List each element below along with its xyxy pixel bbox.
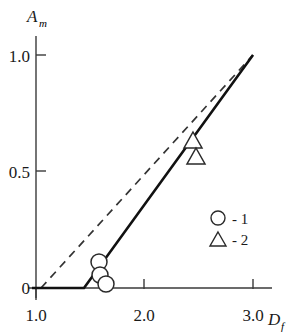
- y-tick-label-0.5: 0.5: [9, 163, 30, 182]
- y-tick-label-1.0: 1.0: [9, 47, 30, 66]
- data-point-circle: [98, 276, 114, 292]
- legend-label-2: - 2: [232, 232, 248, 248]
- y-axis-title-base: A: [26, 7, 38, 26]
- data-point-triangle: [187, 148, 205, 164]
- legend-triangle-icon: [210, 232, 226, 246]
- x-axis-title-base: D: [267, 310, 281, 329]
- scatter-plot: 1.0 0.5 0 1.0 2.0 3.0 A m D f: [0, 0, 297, 335]
- legend-circle-icon: [211, 211, 225, 225]
- y-tick-label-0: 0: [22, 279, 31, 298]
- x-tick-label-2.0: 2.0: [133, 306, 154, 325]
- y-axis-title: A m: [26, 7, 47, 29]
- solid-model-curve: [32, 55, 253, 288]
- y-tick-marks: [36, 55, 46, 171]
- y-axis-title-subscript: m: [39, 17, 47, 29]
- chart-figure: 1.0 0.5 0 1.0 2.0 3.0 A m D f: [0, 0, 297, 335]
- x-axis-title-subscript: f: [281, 320, 286, 332]
- x-tick-label-1.0: 1.0: [25, 306, 46, 325]
- data-point-triangle: [184, 132, 202, 148]
- legend-label-1: - 1: [232, 211, 248, 227]
- series-triangles: [184, 132, 205, 164]
- x-tick-label-3.0: 3.0: [242, 306, 263, 325]
- x-axis-title: D f: [267, 310, 286, 332]
- legend: - 1 - 2: [210, 211, 248, 248]
- dashed-reference-line: [41, 55, 253, 288]
- series-circles: [91, 254, 114, 292]
